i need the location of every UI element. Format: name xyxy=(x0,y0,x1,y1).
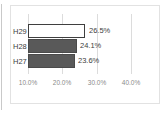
bar-h28[interactable] xyxy=(28,39,77,53)
gridline-40-percent xyxy=(131,14,132,74)
category-label-h27: H27 xyxy=(13,54,28,69)
bar-h27[interactable] xyxy=(28,54,75,68)
bar-h29[interactable] xyxy=(28,24,85,38)
bar-chart-plot-area: H29 26.5% H28 24.1% H27 23.6% 10.0% 20.0… xyxy=(0,0,164,114)
value-label-h29: 26.5% xyxy=(89,24,110,38)
category-label-h28: H28 xyxy=(13,39,28,54)
value-label-h28: 24.1% xyxy=(80,39,101,53)
category-label-h29: H29 xyxy=(13,24,28,39)
tick-label-10: 10.0% xyxy=(13,79,43,86)
tick-label-30: 30.0% xyxy=(82,79,112,86)
tick-label-20: 20.0% xyxy=(47,79,77,86)
tick-label-40: 40.0% xyxy=(116,79,146,86)
value-label-h27: 23.6% xyxy=(78,54,99,68)
